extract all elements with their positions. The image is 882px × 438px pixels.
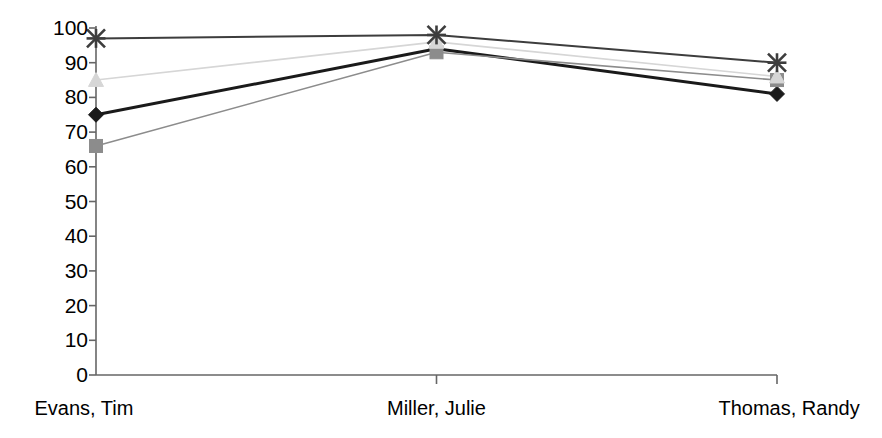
y-tick-label: 60 bbox=[26, 156, 88, 177]
y-tick-label-text: 30 bbox=[32, 260, 88, 281]
y-tick-label-text: 100 bbox=[32, 17, 88, 38]
axis-lines bbox=[96, 26, 777, 375]
y-tick-label: 40 bbox=[26, 225, 88, 246]
series-markers-2 bbox=[90, 46, 784, 153]
x-tick-label-3: Thomas, Randy bbox=[719, 397, 860, 420]
y-tick-label: 30 bbox=[26, 260, 88, 281]
y-tick-label-text: 80 bbox=[32, 86, 88, 107]
y-tick-label: 10 bbox=[26, 329, 88, 350]
y-tick-label-text: 50 bbox=[32, 191, 88, 212]
y-tick-label-text: 90 bbox=[32, 52, 88, 73]
y-tick-label-text: 70 bbox=[32, 121, 88, 142]
y-tick-label: 80 bbox=[26, 86, 88, 107]
y-tick-label-text: 10 bbox=[32, 329, 88, 350]
y-tick-label-text: 20 bbox=[32, 295, 88, 316]
y-tick-label: 0 bbox=[26, 364, 88, 385]
y-tick-label-text: 0 bbox=[32, 364, 88, 385]
y-tick-label: 70 bbox=[26, 121, 88, 142]
y-tick-label: 50 bbox=[26, 191, 88, 212]
y-tick-label-text: 40 bbox=[32, 225, 88, 246]
chart-plot-area bbox=[0, 0, 882, 438]
y-tick-label-text: 60 bbox=[32, 156, 88, 177]
y-tick-label: 20 bbox=[26, 295, 88, 316]
line-chart: 1009080706050403020100 Evans, TimMiller,… bbox=[0, 0, 882, 438]
y-tick-label: 90 bbox=[26, 52, 88, 73]
x-tick-label-2: Miller, Julie bbox=[387, 397, 486, 420]
y-tick-label: 100 bbox=[26, 17, 88, 38]
x-axis-ticks bbox=[437, 375, 778, 384]
x-tick-label-1: Evans, Tim bbox=[35, 397, 134, 420]
